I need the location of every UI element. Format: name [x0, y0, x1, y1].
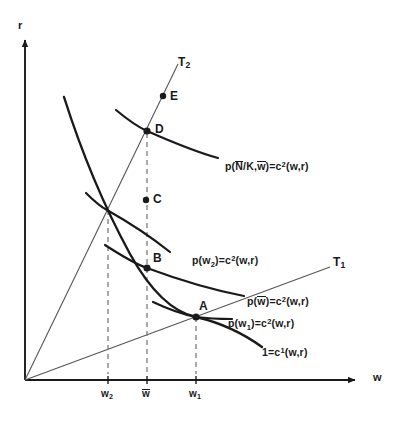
point-label-B: B [153, 252, 162, 264]
curve-label-p-w1: p(w1)=c2(w,r) [228, 318, 294, 331]
ray-T2 [25, 64, 178, 380]
point-dot-C [143, 197, 149, 203]
point-dot-D [143, 127, 150, 134]
diagram-canvas [0, 0, 407, 425]
tick-label-wbar: w [142, 389, 150, 399]
point-label-A: A [199, 300, 208, 312]
point-label-C: C [153, 193, 162, 205]
point-dot-B [143, 264, 150, 271]
point-dot-A [192, 313, 199, 320]
ray-label-T1: T1 [333, 256, 346, 270]
curve-p-nbar-k-wbar [116, 110, 218, 158]
curve-label-unit-cost-c1: 1=c1(w,r) [262, 347, 308, 358]
curve-p-wbar [105, 245, 244, 296]
x-axis-label: w [373, 372, 382, 383]
y-axis-label: r [18, 20, 22, 31]
point-label-E: E [170, 90, 178, 102]
point-dot-E [160, 93, 166, 99]
curve-label-p-nbar-k-wbar: p(N/K,w)=c2(w,r) [225, 161, 309, 172]
point-label-D: D [155, 123, 164, 135]
ray-label-T2: T2 [178, 56, 191, 70]
curve-label-p-wbar: p(w)=c2(w,r) [247, 296, 309, 307]
curve-label-p-w2: p(w2)=c2(w,r) [192, 255, 258, 268]
tick-label-w1: w1 [189, 389, 201, 400]
economics-diagram: r w T1 T2 A B C D E w2 w w1 p(N/K,w)=c2(… [0, 0, 407, 425]
tick-label-w2: w2 [101, 389, 113, 400]
